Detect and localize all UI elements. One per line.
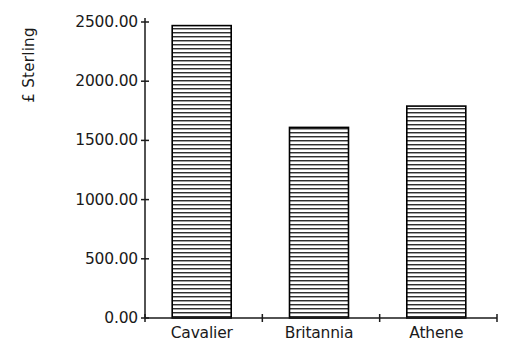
- plot-area: [0, 0, 510, 361]
- bars-group: [172, 26, 466, 318]
- bar-cavalier: [172, 26, 231, 318]
- bar-chart: £ Sterling 0.00500.001000.001500.002000.…: [0, 0, 510, 361]
- bar-athene: [407, 106, 466, 318]
- bar-britannia: [290, 127, 349, 318]
